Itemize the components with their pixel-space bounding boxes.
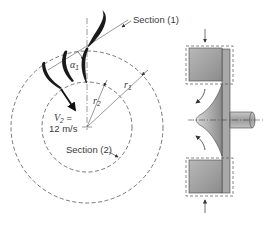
impeller-side-view <box>186 29 265 213</box>
bottom-outlet-block <box>189 160 222 193</box>
impeller-top-view: α1 r1 r2 V2 = 12 m/s Section (1) Section… <box>11 10 179 203</box>
section-2-label: Section (2) <box>66 144 112 155</box>
pump-diagram: α1 r1 r2 V2 = 12 m/s Section (1) Section… <box>0 0 270 235</box>
radius-r2-line <box>87 86 104 127</box>
r2-dim-arrow <box>104 80 107 86</box>
section-1-leader <box>122 21 131 27</box>
blade-left <box>42 62 62 89</box>
alpha1-label: α1 <box>70 59 79 71</box>
r1-label: r1 <box>124 79 132 91</box>
blade-center <box>82 48 89 83</box>
section-1-label: Section (1) <box>133 14 179 25</box>
blade-top <box>87 10 106 48</box>
top-flow-arrow <box>196 89 205 103</box>
v2-value: 12 m/s <box>49 123 78 134</box>
r1-dim-arrow <box>142 70 148 75</box>
alpha1-tangent-line <box>48 46 87 70</box>
top-outlet-block <box>189 48 222 81</box>
bottom-flow-arrow <box>196 136 205 150</box>
v2-velocity-arrow <box>61 89 75 110</box>
backplate <box>222 49 230 193</box>
